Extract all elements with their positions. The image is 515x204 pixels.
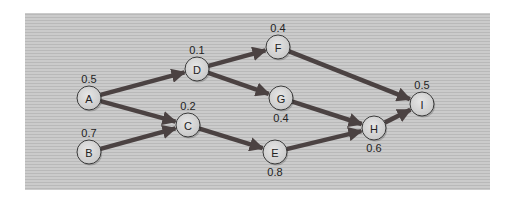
node-weight-label: 0.8 xyxy=(267,166,282,178)
node-label: G xyxy=(277,93,286,105)
node-weight-label: 0.6 xyxy=(366,142,381,154)
node-weight-label: 0.4 xyxy=(270,22,285,34)
node-label: A xyxy=(85,93,93,105)
node-label: I xyxy=(420,99,423,111)
node-label: E xyxy=(271,147,278,159)
node-weight-label: 0.5 xyxy=(414,79,429,91)
node-weight-label: 0.1 xyxy=(189,44,204,56)
node-label: F xyxy=(275,42,282,54)
node-label: B xyxy=(85,147,92,159)
graph-diagram: A0.5B0.7C0.2D0.1E0.8F0.4G0.4H0.6I0.5 xyxy=(0,0,515,204)
node-label: C xyxy=(184,120,192,132)
node-weight-label: 0.5 xyxy=(81,73,96,85)
node-weight-label: 0.2 xyxy=(180,100,195,112)
node-label: H xyxy=(370,123,378,135)
node-label: D xyxy=(193,64,201,76)
node-weight-label: 0.4 xyxy=(273,112,288,124)
node-weight-label: 0.7 xyxy=(81,127,96,139)
